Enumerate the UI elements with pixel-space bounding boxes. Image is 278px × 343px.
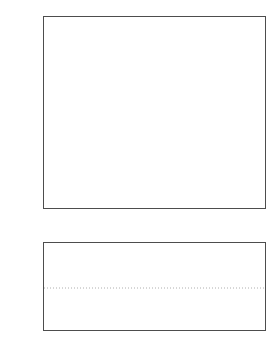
figure-background bbox=[0, 0, 278, 343]
figure-container bbox=[0, 0, 278, 343]
scatter-plot-figure bbox=[0, 0, 278, 343]
